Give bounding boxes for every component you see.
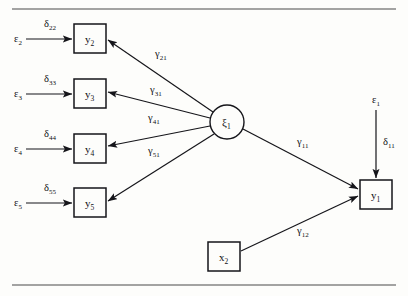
coefficient-label-d55: δ55	[44, 182, 56, 196]
path-diagram: y2y3y4y5y1x2ξ1 δ22δ33δ44δ55δ11γ21γ31γ41γ…	[0, 0, 408, 296]
coefficient-label-d11: δ11	[383, 136, 395, 150]
coefficient-label-g41: γ41	[147, 112, 160, 126]
nodes-layer: y2y3y4y5y1x2ξ1	[74, 24, 392, 271]
edge-g12	[241, 196, 358, 251]
figure-canvas: y2y3y4y5y1x2ξ1 δ22δ33δ44δ55δ11γ21γ31γ41γ…	[0, 0, 408, 296]
coefficient-label-g31: γ31	[149, 84, 162, 98]
error-term-e5: ε5	[14, 197, 22, 211]
coefficient-label-d22: δ22	[44, 18, 56, 32]
error-term-e2: ε2	[14, 33, 22, 47]
coefficient-label-g12: γ12	[296, 225, 309, 239]
error-term-e4: ε4	[14, 143, 22, 157]
error-term-e3: ε3	[14, 88, 22, 102]
edge-g51	[108, 134, 214, 201]
coefficient-label-d33: δ33	[44, 73, 56, 87]
edge-g41	[108, 126, 210, 146]
coefficient-label-g51: γ51	[147, 145, 160, 159]
coefficient-label-g11: γ11	[296, 136, 309, 150]
error-term-e1: ε1	[372, 94, 380, 108]
frame-rules	[12, 9, 396, 285]
coefficient-label-d44: δ44	[44, 128, 56, 142]
edge-g21	[108, 40, 213, 112]
coefficient-label-g21: γ21	[154, 48, 167, 62]
